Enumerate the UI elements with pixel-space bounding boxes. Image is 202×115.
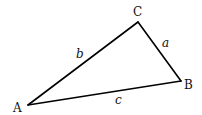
side-label-a: a [162,36,169,50]
vertex-label-b: B [184,78,193,92]
side-a-line [138,22,181,81]
triangle-diagram: A B C a b c [0,0,202,115]
side-c-line [28,81,181,105]
vertex-label-a: A [12,101,22,115]
vertex-label-c: C [133,5,142,19]
side-label-c: c [115,93,122,107]
side-label-b: b [76,47,84,61]
